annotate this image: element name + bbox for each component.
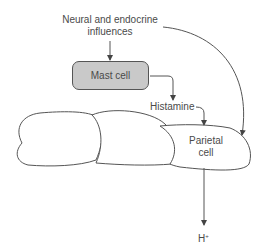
arrow-mast-to-histamine <box>150 76 173 100</box>
parietal-line2: cell <box>186 147 226 159</box>
influences-label: Neural and endocrine influences <box>58 14 162 38</box>
cell-left <box>17 112 102 166</box>
histamine-label: Histamine <box>150 101 194 113</box>
cell-middle <box>92 111 177 165</box>
diagram-canvas: Neural and endocrine influences Mast cel… <box>0 0 262 248</box>
parietal-cell-label: Parietal cell <box>186 135 226 159</box>
mast-cell-label: Mast cell <box>91 70 130 82</box>
hplus-superscript: + <box>205 233 209 239</box>
hplus-label: H+ <box>198 230 209 245</box>
influences-line1: Neural and endocrine <box>58 14 162 26</box>
mast-cell-node: Mast cell <box>72 61 149 90</box>
arrow-influences-to-parietal <box>163 27 244 135</box>
parietal-line1: Parietal <box>186 135 226 147</box>
influences-line2: influences <box>58 26 162 38</box>
arrow-histamine-to-parietal <box>196 107 204 125</box>
